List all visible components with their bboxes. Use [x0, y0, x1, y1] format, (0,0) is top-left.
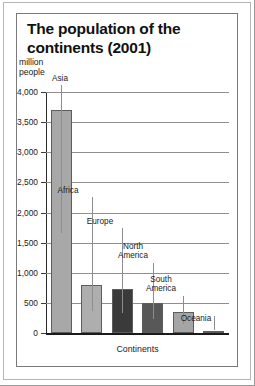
chart-title-line-2: continents (2001): [27, 39, 227, 58]
y-axis-label: million people: [19, 57, 63, 77]
x-axis-label: Continents: [46, 344, 229, 354]
y-axis-label-line-1: million: [19, 57, 63, 67]
chart-title-line-1: The population of the: [27, 20, 227, 39]
chart-page: The population of the continents (2001) …: [0, 0, 255, 386]
y-axis-label-line-2: people: [19, 67, 63, 77]
chart-title: The population of the continents (2001): [27, 20, 227, 58]
